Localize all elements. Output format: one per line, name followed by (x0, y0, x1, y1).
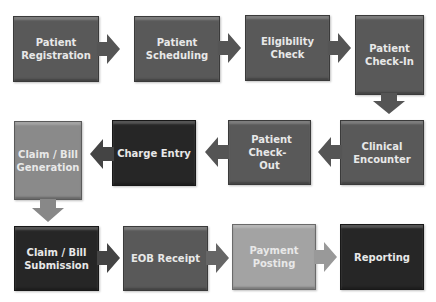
step-patient-scheduling: PatientScheduling (134, 16, 220, 82)
arrow-down-icon (31, 199, 65, 223)
arrow-left-icon (90, 138, 114, 170)
step-label-line2: Registration (17, 50, 95, 61)
step-patient-check-out: Patient Check-Out (228, 120, 311, 185)
step-label-line1: Clinical (358, 141, 407, 152)
step-label-line1: Eligibility (257, 36, 318, 47)
step-label-line1: Patient (365, 43, 414, 54)
arrow-left-icon (205, 136, 229, 168)
step-label-line1: Reporting (350, 251, 414, 264)
step-label-line1: Charge Entry (113, 147, 195, 160)
step-eob-receipt: EOB Receipt (123, 226, 208, 291)
step-patient-check-in: PatientCheck-In (355, 15, 424, 95)
step-clinical-encounter: ClinicalEncounter (340, 120, 424, 185)
step-label-line2: Check-In (361, 56, 418, 67)
arrow-down-icon (372, 93, 406, 115)
arrow-right-icon (314, 241, 338, 273)
step-label-line2: Out (255, 160, 283, 171)
step-charge-entry: Charge Entry (112, 120, 196, 186)
step-reporting: Reporting (340, 224, 424, 290)
step-label-line1: Claim / Bill (14, 149, 82, 160)
arrow-right-icon (328, 32, 352, 64)
arrow-right-icon (218, 32, 242, 64)
step-label-line2: Scheduling (142, 50, 212, 61)
step-claim-bill-submission: Claim / BillSubmission (14, 226, 99, 291)
step-label-line2: Encounter (349, 154, 414, 165)
arrow-left-icon (318, 136, 342, 168)
step-patient-registration: PatientRegistration (13, 16, 99, 82)
arrow-right-icon (97, 33, 121, 65)
arrow-right-icon (97, 242, 121, 274)
step-label-line2: Check (267, 49, 309, 60)
step-label-line2: Submission (20, 260, 93, 271)
step-label-line1: Claim / Bill (23, 247, 91, 258)
step-label-line1: Payment (245, 245, 302, 256)
step-label-line1: Patient (32, 37, 81, 48)
step-payment-posting: PaymentPosting (232, 224, 316, 290)
step-label-line2: Generation (13, 162, 84, 173)
step-eligibility-check: EligibilityCheck (245, 15, 330, 81)
step-label-line2: Posting (249, 258, 300, 269)
step-label-line1: EOB Receipt (127, 252, 204, 265)
step-label-line1: Patient Check- (247, 134, 292, 158)
step-label-line1: Patient (153, 37, 202, 48)
step-claim-bill-generation: Claim / BillGeneration (14, 121, 82, 200)
arrow-right-icon (206, 242, 230, 274)
